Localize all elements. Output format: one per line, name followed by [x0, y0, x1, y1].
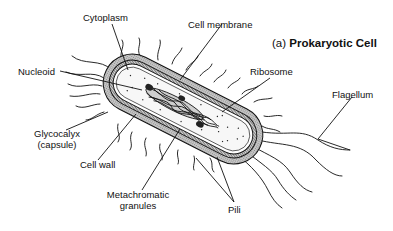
label-cell-membrane: Cell membrane	[188, 19, 252, 30]
cell-body	[93, 44, 273, 174]
label-flagellum: Flagellum	[332, 89, 373, 100]
label-metachromatic-line2: granules	[102, 200, 174, 211]
title-main: Prokaryotic Cell	[289, 37, 377, 49]
label-pili: Pili	[228, 204, 241, 215]
title-prefix: (a)	[272, 37, 286, 49]
label-glycocalyx-line1: Glycocalyx	[32, 128, 82, 139]
label-cytoplasm: Cytoplasm	[83, 12, 128, 23]
label-ribosome: Ribosome	[250, 66, 293, 77]
label-metachromatic-line1: Metachromatic	[102, 189, 174, 200]
label-nucleoid: Nucleoid	[18, 66, 55, 77]
label-metachromatic-granules: Metachromatic granules	[102, 189, 174, 211]
prokaryotic-cell-diagram	[0, 0, 393, 231]
label-glycocalyx: Glycocalyx (capsule)	[32, 128, 82, 150]
label-glycocalyx-line2: (capsule)	[32, 139, 82, 150]
diagram-title: (a) Prokaryotic Cell	[272, 37, 377, 49]
label-cell-wall: Cell wall	[80, 159, 115, 170]
